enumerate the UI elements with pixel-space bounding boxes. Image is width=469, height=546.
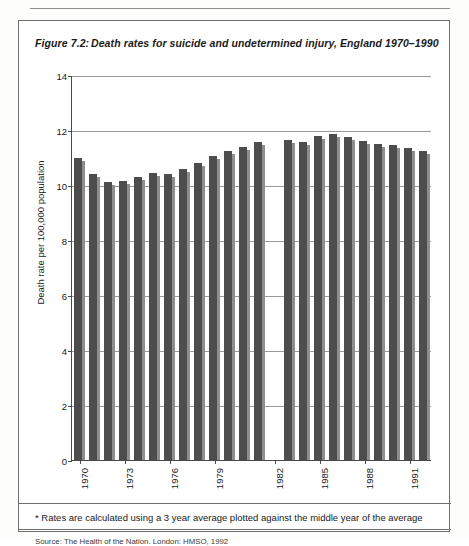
bar [194,163,206,460]
footnote-divider [19,503,451,504]
y-tick-label: 6 [62,291,67,302]
chart-area: Death rate per 100,000 population 024681… [19,57,451,489]
figure-box: Figure 7.2:Death rates for suicide and u… [18,20,450,532]
bar-series [72,76,431,460]
y-tick-label: 14 [56,71,67,82]
y-axis-label: Death rate per 100,000 population [35,128,46,338]
bar-face [239,147,247,461]
x-tick-label: 1982 [273,468,284,489]
bar-shadow [217,159,220,460]
bar-face [134,177,142,460]
bar [314,136,326,461]
bar-shadow [247,150,250,461]
bar-face [314,136,322,461]
bar [359,141,371,460]
y-tick-label: 10 [56,181,67,192]
bar [104,182,116,460]
bar-face [224,151,232,460]
figure-title-text: Death rates for suicide and undetermined… [91,37,439,49]
x-tick-label: 1991 [408,468,419,489]
bar-shadow [307,145,310,460]
bar [89,174,101,460]
bar [299,142,311,460]
bar [209,156,221,460]
bar [119,181,131,460]
bar-face [419,151,427,460]
footnote: * Rates are calculated using a 3 year av… [35,512,423,523]
figure-caption: Figure 7.2:Death rates for suicide and u… [35,37,439,49]
x-tick-label: 1973 [123,468,134,489]
bar-face [404,148,412,460]
source-line: Source: The Health of the Nation. London… [35,537,228,546]
bar [149,173,161,460]
bar [134,177,146,460]
source-divider [19,529,451,530]
bar-face [194,163,202,460]
bar [179,169,191,461]
bar-face [299,142,307,460]
bar-face [74,158,82,461]
y-tick-label: 4 [62,346,67,357]
x-tick-mark [320,460,321,464]
x-tick-label: 1988 [363,468,374,489]
bar-shadow [367,144,370,460]
bar-face [149,173,157,460]
bar-shadow [427,154,430,460]
y-tick-label: 0 [62,456,67,467]
bar-shadow [352,140,355,460]
bar-shadow [82,161,85,461]
bar-face [119,181,127,460]
bar [389,145,401,460]
bar-shadow [157,176,160,460]
x-tick-mark [170,460,171,464]
bar-face [284,140,292,460]
x-tick-label: 1970 [78,468,89,489]
bar-shadow [322,139,325,461]
bar-face [344,137,352,460]
bar [254,142,266,460]
bar [374,144,386,460]
bar-face [254,142,262,460]
bar-face [374,144,382,460]
x-tick-label: 1985 [318,468,329,489]
plot-region: 02468101214 1970197319761979198219851988… [71,76,431,461]
bar-face [389,145,397,460]
bar-face [104,182,112,460]
bar-shadow [292,143,295,460]
bar [344,137,356,460]
x-tick-mark [275,460,276,464]
x-tick-label: 1976 [168,468,179,489]
x-tick-mark [215,460,216,464]
bar-face [164,174,172,460]
bar-shadow [382,147,385,460]
bar-shadow [142,180,145,460]
bar-face [359,141,367,460]
bar-face [329,134,337,460]
x-axis-ticks: 19701973197619791982198519881991 [72,460,431,470]
bar-shadow [412,151,415,460]
bar [284,140,296,460]
bar-shadow [232,154,235,460]
y-tick-label: 12 [56,126,67,137]
bar-shadow [97,177,100,460]
bar-face [89,174,97,460]
bar-shadow [187,172,190,461]
bar [164,174,176,460]
bar-shadow [112,185,115,460]
bar-shadow [172,177,175,460]
x-tick-mark [125,460,126,464]
bar [224,151,236,460]
bar-shadow [397,148,400,460]
y-tick-label: 8 [62,236,67,247]
x-tick-label: 1979 [213,468,224,489]
bar-face [209,156,217,460]
bar [239,147,251,461]
bar-shadow [262,145,265,460]
x-tick-mark [365,460,366,464]
x-tick-mark [80,460,81,464]
bar [419,151,431,460]
bar [74,158,86,461]
bar-face [179,169,187,461]
bar-shadow [202,166,205,460]
bar [404,148,416,460]
